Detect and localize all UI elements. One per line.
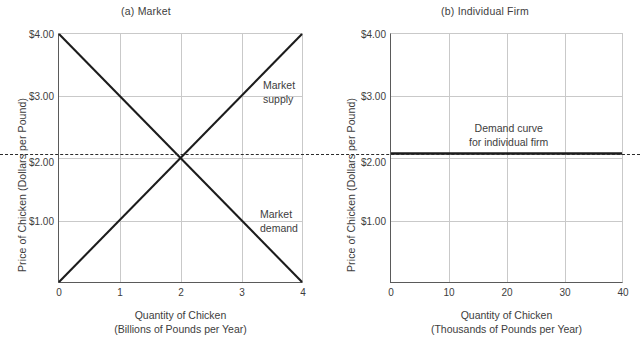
panel-b-xtick-20: 20 bbox=[501, 287, 512, 298]
equilibrium-price-dashed-line bbox=[0, 154, 640, 155]
panel-b-xtick-0: 0 bbox=[388, 287, 394, 298]
panel-a-curves bbox=[59, 34, 302, 282]
panel-a-ytick-4: $4.00 bbox=[29, 29, 54, 40]
panel-a-ytick-2: $2.00 bbox=[29, 157, 54, 168]
panel-individual-firm: (b) Individual Firm $4.00 $3.00 $2.00 $1… bbox=[330, 0, 640, 342]
panel-b-xtick-30: 30 bbox=[559, 287, 570, 298]
panel-b-xtick-10: 10 bbox=[443, 287, 454, 298]
panel-a-xtick-1: 1 bbox=[117, 287, 123, 298]
panel-a-x-axis-title-line2: (Billions of Pounds per Year) bbox=[58, 322, 303, 336]
individual-firm-demand-label-line2: for individual firm bbox=[469, 135, 548, 149]
panel-a-xtick-4: 4 bbox=[300, 287, 306, 298]
panel-b-x-axis-title-line2: (Thousands of Pounds per Year) bbox=[390, 322, 623, 336]
panel-b-ytick-4: $4.00 bbox=[361, 29, 386, 40]
panel-a-xtick-3: 3 bbox=[239, 287, 245, 298]
panel-b-curves bbox=[391, 34, 622, 282]
panel-b-y-axis-title: Price of Chicken (Dollars per Pound) bbox=[345, 98, 357, 272]
panel-a-x-axis-title-line1: Quantity of Chicken bbox=[58, 308, 303, 322]
panel-b-title: (b) Individual Firm bbox=[340, 5, 630, 17]
panel-a-ytick-3: $3.00 bbox=[29, 91, 54, 102]
figure-market-and-individual-firm: (a) Market $4.00 $3.00 $2.00 $1.00 0 1 2… bbox=[0, 0, 640, 342]
individual-firm-demand-label-line1: Demand curve bbox=[469, 121, 548, 135]
market-supply-label-line1: Market bbox=[263, 79, 295, 93]
panel-market: (a) Market $4.00 $3.00 $2.00 $1.00 0 1 2… bbox=[0, 0, 330, 342]
panel-a-title: (a) Market bbox=[16, 5, 276, 17]
individual-firm-demand-label: Demand curve for individual firm bbox=[469, 121, 548, 149]
panel-a-ytick-1: $1.00 bbox=[29, 216, 54, 227]
panel-b-ytick-3: $3.00 bbox=[361, 91, 386, 102]
panel-a-x-axis-title: Quantity of Chicken (Billions of Pounds … bbox=[58, 308, 303, 336]
panel-b-ytick-2: $2.00 bbox=[361, 157, 386, 168]
market-supply-label-line2: supply bbox=[263, 93, 295, 107]
market-demand-label-line1: Market bbox=[260, 208, 298, 222]
panel-a-plot-area: $4.00 $3.00 $2.00 $1.00 0 1 2 3 4 Market… bbox=[58, 33, 303, 283]
panel-a-xtick-2: 2 bbox=[178, 287, 184, 298]
panel-a-xtick-0: 0 bbox=[56, 287, 62, 298]
market-demand-label-line2: demand bbox=[260, 222, 298, 236]
panel-b-ytick-1: $1.00 bbox=[361, 216, 386, 227]
panel-b-x-axis-title: Quantity of Chicken (Thousands of Pounds… bbox=[390, 308, 623, 336]
market-supply-label: Market supply bbox=[263, 79, 295, 106]
market-demand-label: Market demand bbox=[260, 208, 298, 235]
panel-b-x-axis-title-line1: Quantity of Chicken bbox=[390, 308, 623, 322]
panel-b-xtick-40: 40 bbox=[617, 287, 628, 298]
panel-b-plot-area: $4.00 $3.00 $2.00 $1.00 0 10 20 30 40 De… bbox=[390, 33, 623, 283]
panel-a-y-axis-title: Price of Chicken (Dollars per Pound) bbox=[16, 98, 28, 272]
